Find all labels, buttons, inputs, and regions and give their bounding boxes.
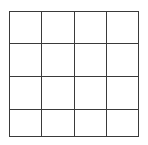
grid-cell-r0-c0 bbox=[9, 11, 41, 43]
grid-cell-r3-c2 bbox=[74, 109, 106, 136]
grid-4x4 bbox=[0, 0, 148, 145]
grid-cell-r1-c3 bbox=[106, 43, 138, 76]
grid-cell-r0-c3 bbox=[106, 11, 138, 43]
grid-cell-r2-c1 bbox=[41, 76, 74, 109]
grid-cell-r1-c2 bbox=[74, 43, 106, 76]
grid-cell-r0-c2 bbox=[74, 11, 106, 43]
grid-cell-r3-c0 bbox=[9, 109, 41, 136]
grid-cell-r0-c1 bbox=[41, 11, 74, 43]
grid-cell-r2-c0 bbox=[9, 76, 41, 109]
grid-cell-r3-c3 bbox=[106, 109, 138, 136]
grid-cell-r3-c1 bbox=[41, 109, 74, 136]
grid-cell-r1-c0 bbox=[9, 43, 41, 76]
grid-cell-r2-c2 bbox=[74, 76, 106, 109]
grid-cell-r1-c1 bbox=[41, 43, 74, 76]
grid-cell-r2-c3 bbox=[106, 76, 138, 109]
